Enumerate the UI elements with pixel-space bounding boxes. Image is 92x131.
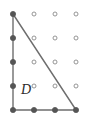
lattice-point-open: [53, 60, 57, 64]
lattice-point-open: [53, 36, 57, 40]
lattice-point-filled: [52, 107, 57, 112]
lattice-point-filled: [31, 107, 36, 112]
lattice-point-open: [32, 60, 36, 64]
lattice-point-filled: [10, 11, 15, 16]
lattice-point-open: [74, 60, 78, 64]
lattice-point-open: [53, 12, 57, 16]
lattice-point-filled: [10, 83, 15, 88]
lattice-figure-canvas: D: [0, 0, 92, 131]
lattice-point-filled: [10, 35, 15, 40]
lattice-point-open: [74, 84, 78, 88]
region-label-D: D: [20, 82, 31, 97]
lattice-point-open: [32, 84, 36, 88]
lattice-point-filled: [10, 107, 15, 112]
lattice-point-open: [74, 36, 78, 40]
lattice-point-open: [32, 36, 36, 40]
lattice-point-filled: [10, 59, 15, 64]
lattice-point-open: [74, 12, 78, 16]
lattice-point-open: [53, 84, 57, 88]
lattice-figure-container: D: [0, 0, 92, 131]
lattice-point-open: [32, 12, 36, 16]
lattice-point-filled: [73, 107, 78, 112]
